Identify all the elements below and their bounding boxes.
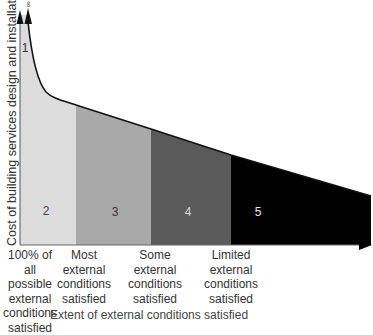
x-category-line: conditions <box>201 277 261 292</box>
region-1-label: 1 <box>22 41 29 55</box>
x-category-line: external <box>201 263 261 278</box>
x-category-line: external <box>56 263 112 278</box>
infinity-symbol: ∞ <box>24 1 33 7</box>
x-axis-caption: Extent of external conditions satisfied <box>50 308 248 322</box>
region-5-band <box>231 0 373 245</box>
x-category-line: satisfied <box>201 292 261 307</box>
x-category-line: possible <box>2 277 58 292</box>
x-category-line: satisfied <box>127 292 183 307</box>
x-category-line: satisfied <box>56 292 112 307</box>
x-category-line: conditions <box>127 277 183 292</box>
region-5-label: 5 <box>255 205 262 219</box>
x-category-line: conditions <box>56 277 112 292</box>
x-category-line: Limited <box>201 248 261 263</box>
x-category-line: Most <box>56 248 112 263</box>
y-axis-label: Cost of building services design and ins… <box>5 16 19 246</box>
region-3-label: 3 <box>112 205 119 219</box>
region-2-label: 2 <box>43 204 50 218</box>
x-category-some: Some external conditions satisfied <box>127 248 183 306</box>
x-category-limited: Limited external conditions satisfied <box>201 248 261 306</box>
x-category-line: 100% of all <box>2 248 58 277</box>
x-category-line: external <box>2 292 58 307</box>
x-category-line: Some <box>127 248 183 263</box>
x-category-line: satisfied <box>2 321 58 335</box>
x-category-line: external <box>127 263 183 278</box>
region-4-label: 4 <box>185 205 192 219</box>
x-category-most: Most external conditions satisfied <box>56 248 112 306</box>
region-bands <box>20 0 373 245</box>
